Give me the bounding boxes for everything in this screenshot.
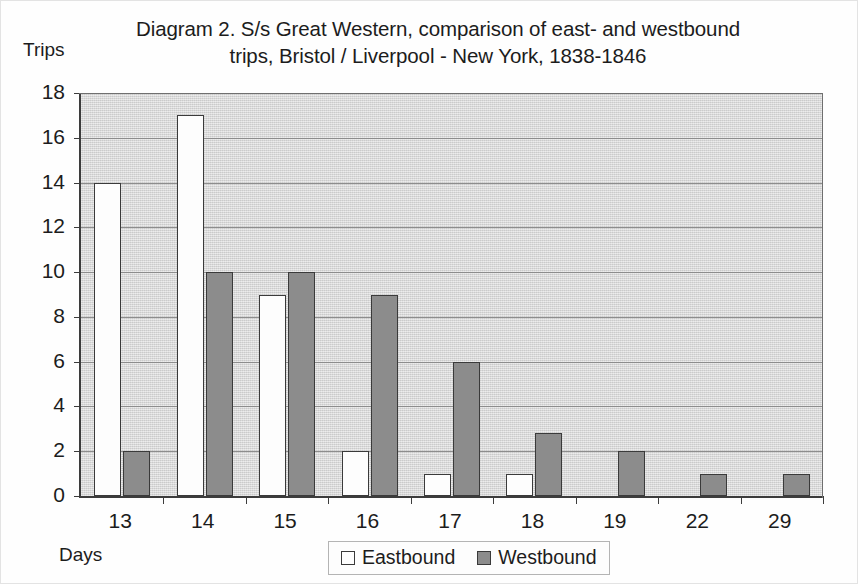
bar-westbound-13	[123, 451, 150, 496]
chart-figure: Diagram 2. S/s Great Western, comparison…	[0, 0, 858, 584]
bar-eastbound-15	[259, 295, 286, 497]
x-axis-tick	[741, 496, 742, 504]
chart-legend: Eastbound Westbound	[328, 541, 610, 575]
bar-westbound-19	[618, 451, 645, 496]
x-axis-label: 14	[163, 509, 243, 533]
legend-label-westbound: Westbound	[498, 546, 596, 569]
x-axis-label: 18	[492, 509, 572, 533]
x-axis-tick	[163, 496, 164, 504]
x-axis-title: Days	[59, 544, 102, 566]
bar-westbound-16	[371, 295, 398, 497]
bar-westbound-14	[206, 272, 233, 496]
x-axis-tick	[328, 496, 329, 504]
y-axis-tick	[74, 272, 81, 273]
y-axis-label: 18	[15, 80, 65, 104]
x-axis-label: 22	[657, 509, 737, 533]
chart-title: Diagram 2. S/s Great Western, comparison…	[93, 15, 783, 69]
legend-label-eastbound: Eastbound	[362, 546, 455, 569]
y-axis-tick	[74, 138, 81, 139]
y-axis-label: 16	[15, 125, 65, 149]
x-axis-tick	[823, 496, 824, 504]
y-axis-label: 12	[15, 214, 65, 238]
legend-swatch-eastbound-icon	[341, 551, 355, 565]
bar-westbound-18	[535, 433, 562, 496]
y-axis-tick	[74, 227, 81, 228]
bar-westbound-17	[453, 362, 480, 496]
y-axis-label: 8	[15, 304, 65, 328]
bar-westbound-29	[783, 474, 810, 496]
y-axis-label: 4	[15, 393, 65, 417]
y-axis-tick	[74, 183, 81, 184]
y-axis-tick	[74, 496, 81, 497]
x-axis-tick	[246, 496, 247, 504]
x-axis-tick	[493, 496, 494, 504]
legend-swatch-westbound-icon	[477, 551, 491, 565]
chart-title-line-2: trips, Bristol / Liverpool - New York, 1…	[93, 42, 783, 69]
plot-area	[79, 93, 823, 498]
x-axis-label: 13	[80, 509, 160, 533]
bar-eastbound-17	[424, 474, 451, 496]
bar-eastbound-13	[94, 183, 121, 496]
chart-title-line-1: Diagram 2. S/s Great Western, comparison…	[93, 15, 783, 42]
y-axis-label: 10	[15, 259, 65, 283]
y-axis-tick	[74, 406, 81, 407]
legend-item-westbound: Westbound	[477, 546, 596, 569]
y-axis-tick	[74, 362, 81, 363]
x-axis-label: 29	[740, 509, 820, 533]
bar-eastbound-18	[506, 474, 533, 496]
x-axis-label: 16	[328, 509, 408, 533]
bar-westbound-15	[288, 272, 315, 496]
y-axis-label: 6	[15, 349, 65, 373]
bar-eastbound-14	[177, 115, 204, 496]
y-axis-label: 2	[15, 438, 65, 462]
x-axis-tick	[411, 496, 412, 504]
legend-item-eastbound: Eastbound	[341, 546, 455, 569]
y-axis-title: Trips	[23, 39, 65, 61]
x-axis-tick	[576, 496, 577, 504]
y-axis-label: 14	[15, 170, 65, 194]
x-axis-tick	[658, 496, 659, 504]
y-axis-label: 0	[15, 483, 65, 507]
bar-westbound-22	[700, 474, 727, 496]
x-axis-label: 15	[245, 509, 325, 533]
bar-eastbound-16	[342, 451, 369, 496]
y-axis-tick	[74, 451, 81, 452]
x-axis-label: 17	[410, 509, 490, 533]
y-axis-tick	[74, 93, 81, 94]
y-axis-tick	[74, 317, 81, 318]
x-axis-label: 19	[575, 509, 655, 533]
